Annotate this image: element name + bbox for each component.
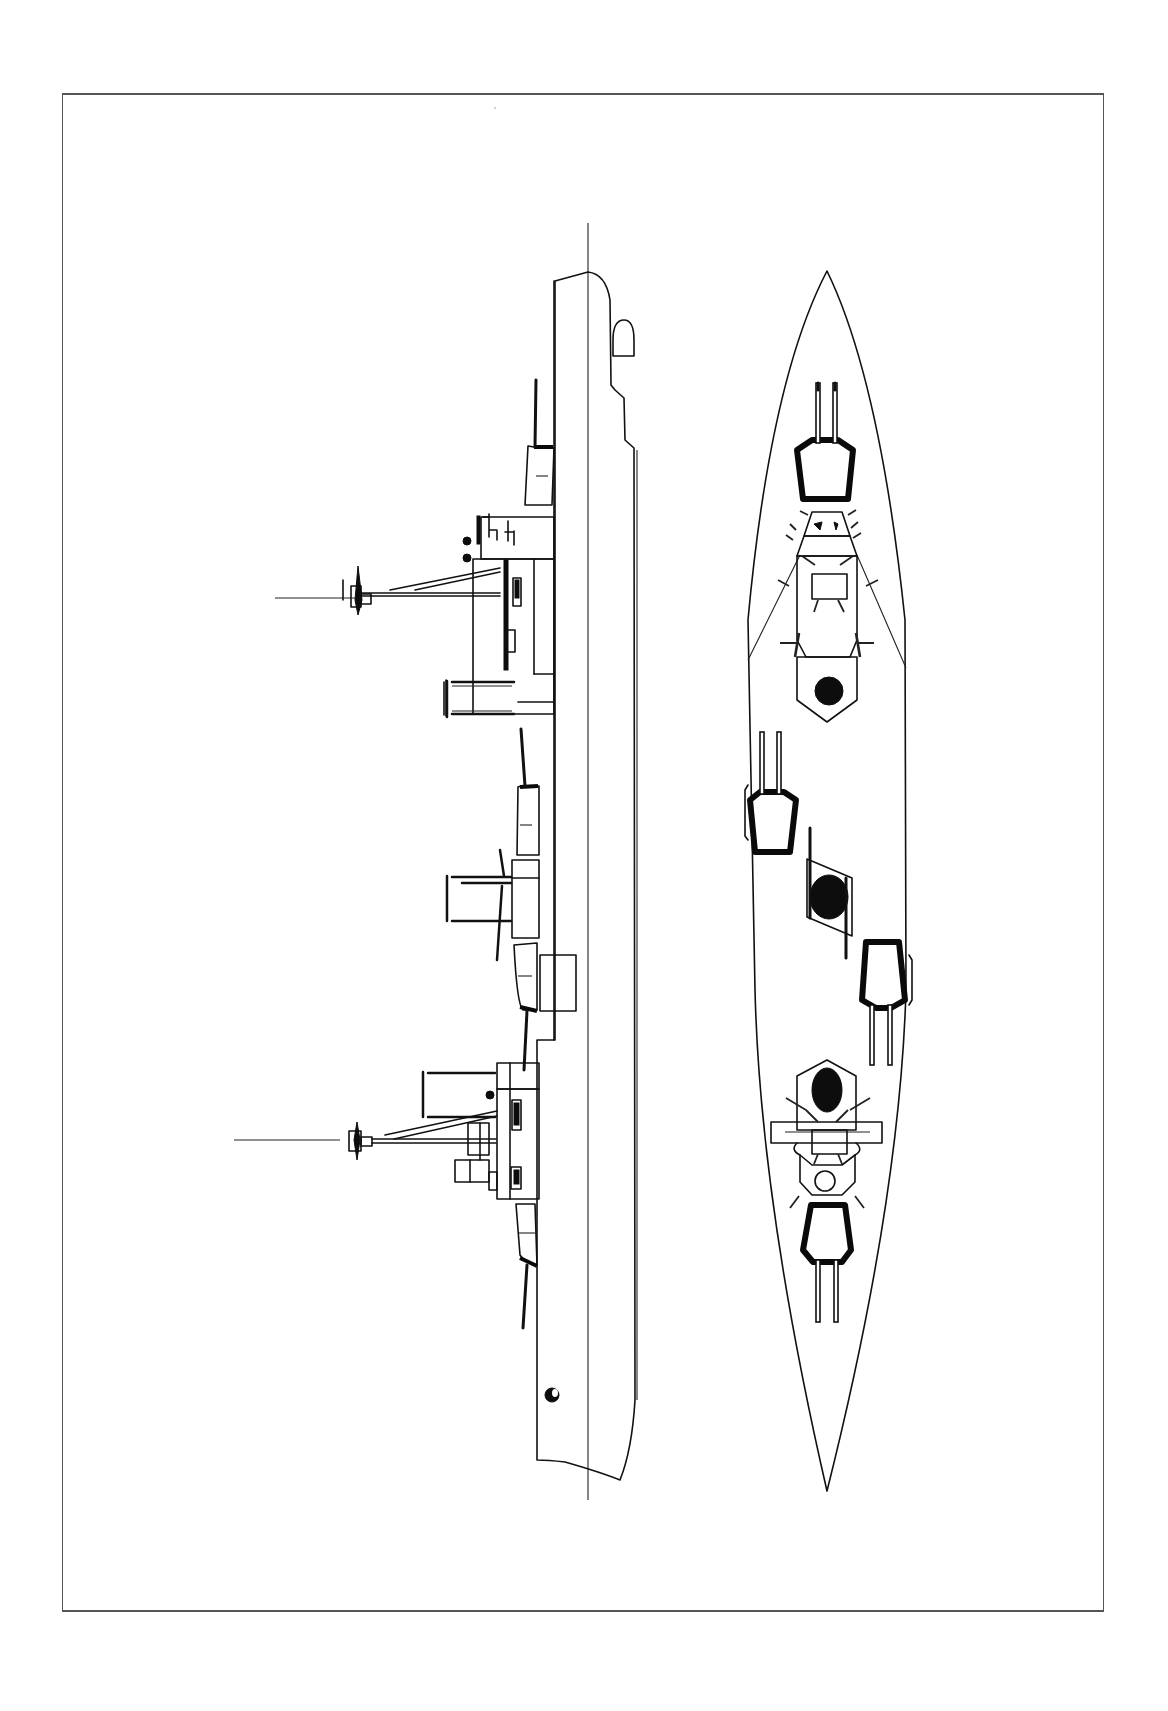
side-turret-a — [525, 380, 554, 505]
drawing-page — [0, 0, 1168, 1711]
funnel-3-side — [423, 1072, 495, 1117]
bow-hawse-icon — [613, 320, 634, 356]
plan-funnel-2 — [807, 828, 852, 958]
side-turret-d — [516, 1204, 537, 1328]
hull-profile — [537, 272, 635, 1480]
ship-drawing — [0, 0, 1168, 1711]
forward-superstructure — [481, 517, 554, 559]
plan-turret-c — [862, 942, 912, 1065]
scan-speck — [494, 107, 496, 109]
plan-view — [745, 271, 912, 1491]
funnel-1-side — [444, 680, 514, 717]
side-turret-b — [517, 729, 539, 855]
aft-superstructure — [497, 1063, 539, 1089]
plan-aft-superstructure — [771, 1060, 882, 1208]
plan-forward-superstructure — [778, 510, 878, 722]
foremast — [275, 566, 500, 615]
plan-turret-d — [803, 1205, 851, 1322]
side-profile-view — [234, 223, 637, 1500]
mainmast — [234, 1111, 497, 1160]
plan-turret-a — [797, 383, 853, 499]
side-turret-c — [514, 943, 576, 1070]
funnel-2-side — [447, 850, 511, 960]
plan-turret-b — [745, 732, 796, 852]
